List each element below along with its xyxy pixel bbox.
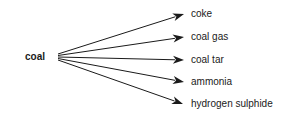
product-label-coal-tar: coal tar — [191, 54, 224, 65]
arrow-line-hydrogen-sulphide — [58, 60, 175, 101]
arrow-line-ammonia — [58, 59, 175, 81]
arrow-line-coal-tar — [58, 57, 175, 60]
product-label-coal-gas: coal gas — [191, 31, 228, 42]
product-label-coke: coke — [191, 8, 212, 19]
product-label-hydrogen-sulphide: hydrogen sulphide — [191, 98, 273, 109]
product-label-ammonia: ammonia — [191, 76, 232, 87]
arrow-line-coke — [58, 17, 175, 54]
arrow-line-coal-gas — [58, 38, 175, 55]
source-node-coal: coal — [25, 51, 45, 62]
